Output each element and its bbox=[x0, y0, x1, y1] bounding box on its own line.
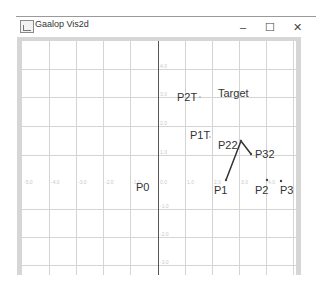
canvas-border-right bbox=[296, 37, 301, 275]
svg-text:-3.0: -3.0 bbox=[160, 259, 169, 265]
svg-text:1.0: 1.0 bbox=[160, 149, 167, 155]
label-p3: P3 bbox=[280, 184, 293, 196]
svg-text:4.0: 4.0 bbox=[160, 63, 167, 69]
label-target: Target bbox=[218, 87, 249, 99]
svg-text:-1.0: -1.0 bbox=[160, 203, 169, 209]
canvas-border-left bbox=[17, 37, 22, 275]
label-p32: P32 bbox=[255, 148, 275, 160]
app-window: Gaalop Vis2d – ☐ ✕ -5.0 -4.0 bbox=[0, 0, 317, 286]
svg-text:-3.0: -3.0 bbox=[78, 179, 87, 185]
svg-text:-2.0: -2.0 bbox=[160, 231, 169, 237]
svg-text:3.0: 3.0 bbox=[241, 179, 248, 185]
label-p1: P1 bbox=[214, 184, 227, 196]
x-tick-labels: -5.0 -4.0 -3.0 -2.0 -1.0 0.0 1.0 2.0 3.0… bbox=[24, 179, 275, 185]
label-p1t: P1T bbox=[190, 129, 210, 141]
svg-text:-5.0: -5.0 bbox=[24, 179, 33, 185]
canvas-border-top bbox=[17, 37, 301, 41]
points bbox=[199, 96, 282, 182]
svg-text:4.0: 4.0 bbox=[268, 179, 275, 185]
svg-text:-2.0: -2.0 bbox=[105, 179, 114, 185]
label-p22: P22 bbox=[218, 139, 238, 151]
svg-text:-4.0: -4.0 bbox=[51, 179, 60, 185]
svg-text:0.0: 0.0 bbox=[160, 179, 167, 185]
label-p2: P2 bbox=[255, 184, 268, 196]
svg-text:2.0: 2.0 bbox=[160, 120, 167, 126]
plot-svg: -5.0 -4.0 -3.0 -2.0 -1.0 0.0 1.0 2.0 3.0… bbox=[0, 0, 317, 286]
svg-text:1.0: 1.0 bbox=[187, 179, 194, 185]
label-p0: P0 bbox=[136, 181, 149, 193]
y-tick-labels: 4.0 3.0 2.0 1.0 -1.0 -2.0 -3.0 bbox=[160, 63, 169, 265]
svg-text:3.0: 3.0 bbox=[160, 91, 167, 97]
label-p2t: P2T bbox=[177, 91, 197, 103]
